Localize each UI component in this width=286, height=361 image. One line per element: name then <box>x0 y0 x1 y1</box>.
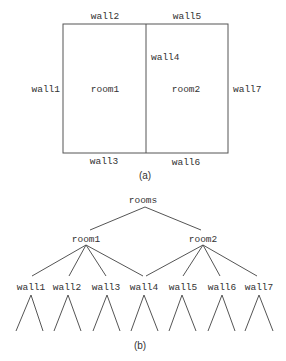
tree-node-wall3: wall3 <box>92 282 121 293</box>
tree-node-rooms: rooms <box>129 195 158 206</box>
floor-plan: wall2 wall5 wall4 wall1 room1 room2 wall… <box>31 11 261 181</box>
label-wall5: wall5 <box>173 11 202 22</box>
subtree-wall7 <box>245 295 273 331</box>
caption-b: (b) <box>134 340 146 351</box>
edge-room2-wall5 <box>183 245 203 276</box>
edge-rooms-room1 <box>90 207 145 230</box>
subtree-wall5 <box>169 295 196 331</box>
label-wall7: wall7 <box>233 84 262 95</box>
tree-node-wall1: wall1 <box>17 282 46 293</box>
edge-rooms-room2 <box>145 207 201 230</box>
subtree-wall2 <box>54 295 81 331</box>
edge-room1-wall3 <box>86 245 106 276</box>
tree-node-wall2: wall2 <box>53 282 82 293</box>
hierarchy-tree: rooms room1 room2 wall1 wall2 wall3 wall… <box>16 195 273 351</box>
subtree-wall3 <box>93 295 120 331</box>
tree-node-room2: room2 <box>189 234 218 245</box>
subtree-wall4 <box>131 295 158 331</box>
label-wall1: wall1 <box>31 84 60 95</box>
tree-node-room1: room1 <box>72 234 101 245</box>
label-wall3: wall3 <box>90 156 119 167</box>
tree-node-wall5: wall5 <box>169 282 198 293</box>
label-wall6: wall6 <box>172 157 201 168</box>
subtree-wall1 <box>16 295 43 331</box>
label-wall4: wall4 <box>151 52 180 63</box>
label-wall2: wall2 <box>91 11 120 22</box>
edge-room2-wall4 <box>146 245 203 276</box>
caption-a: (a) <box>139 170 151 181</box>
label-room1: room1 <box>91 84 120 95</box>
tree-node-wall7: wall7 <box>245 282 274 293</box>
figure: wall2 wall5 wall4 wall1 room1 room2 wall… <box>0 0 286 361</box>
tree-node-wall4: wall4 <box>130 282 159 293</box>
tree-node-wall6: wall6 <box>208 282 237 293</box>
subtree-wall6 <box>208 295 235 331</box>
label-room2: room2 <box>172 84 201 95</box>
edge-room1-wall4 <box>86 245 143 276</box>
